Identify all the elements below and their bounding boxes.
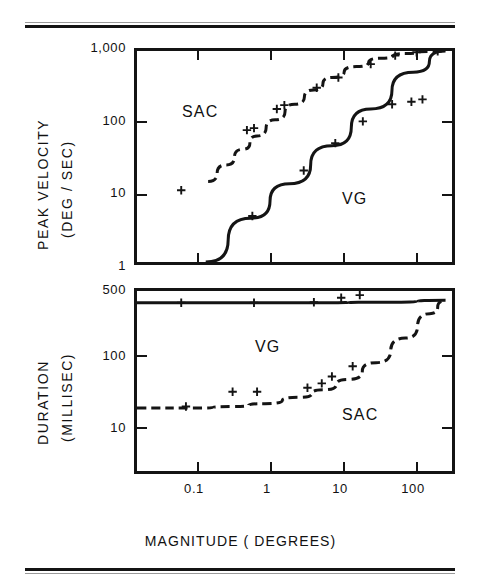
duration-xtick-label-100: 100 bbox=[383, 482, 443, 495]
peak-velocity-panel: SAC VG bbox=[134, 48, 455, 265]
peak-velocity-plot-area bbox=[137, 51, 452, 262]
series-points-vg bbox=[248, 95, 427, 220]
series-line-sac bbox=[137, 301, 446, 408]
peak-velocity-ytick-label-100: 100 bbox=[70, 114, 126, 127]
duration-plot-area bbox=[137, 291, 452, 471]
duration-ytick-label-500: 500 bbox=[70, 283, 126, 296]
figure-page: PEAK VELOCITY (DEG / SEC) 1,000 100 10 1… bbox=[0, 0, 481, 583]
duration-xtick-label-1: 1 bbox=[237, 482, 297, 495]
x-axis-title: MAGNITUDE ( DEGREES) bbox=[0, 533, 481, 549]
duration-label-vg: VG bbox=[255, 339, 281, 355]
top-rule bbox=[25, 22, 455, 28]
peak-velocity-label-vg: VG bbox=[342, 191, 368, 207]
duration-series-canvas bbox=[137, 291, 452, 471]
peak-velocity-ytick-label-1000: 1,000 bbox=[70, 41, 126, 54]
top-rule-thick bbox=[25, 25, 455, 28]
series-line-vg bbox=[206, 51, 446, 262]
peak-velocity-ytick-label-10: 10 bbox=[70, 186, 126, 199]
series-points-vg bbox=[177, 291, 364, 307]
duration-ytick-label-10: 10 bbox=[70, 421, 126, 434]
bottom-rule-thin bbox=[25, 573, 455, 574]
duration-xtick-label-10: 10 bbox=[310, 482, 370, 495]
peak-velocity-series-canvas bbox=[137, 51, 452, 262]
series-line-sac bbox=[208, 51, 445, 181]
duration-label-sac: SAC bbox=[342, 407, 379, 423]
peak-velocity-label-sac: SAC bbox=[182, 104, 219, 120]
bottom-rule bbox=[25, 568, 455, 574]
duration-panel: VG SAC bbox=[134, 288, 455, 474]
duration-ytick-label-100: 100 bbox=[70, 349, 126, 362]
peak-velocity-ytick-label-1: 1 bbox=[70, 259, 126, 272]
duration-xtick-label-0.1: 0.1 bbox=[164, 482, 224, 495]
duration-axis-title-line1: DURATION bbox=[36, 360, 50, 445]
peak-velocity-axis-title-line1: PEAK VELOCITY bbox=[36, 119, 50, 250]
